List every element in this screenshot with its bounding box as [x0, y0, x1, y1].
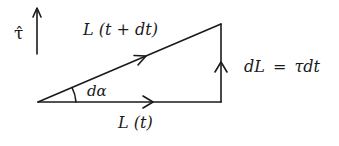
torque-angular-momentum-diagram: τ̂ L (t + dt) dα L (t) dL = τdt: [0, 0, 339, 146]
dL-equation-label: dL = τdt: [244, 59, 320, 75]
tau-hat-label: τ̂: [14, 25, 23, 42]
L-t-label: L (t): [118, 115, 153, 131]
d-alpha-arc: [72, 88, 76, 103]
L-t-plus-dt-label: L (t + dt): [83, 22, 158, 38]
d-alpha-label: dα: [87, 84, 107, 99]
